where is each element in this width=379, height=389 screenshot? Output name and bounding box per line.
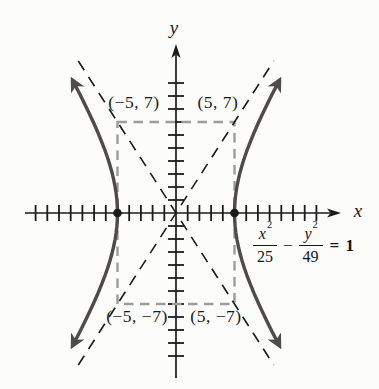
equation-exponent-x: 2 (267, 219, 272, 230)
y-axis-label: y (170, 17, 178, 39)
equation-var-x: x (259, 225, 266, 242)
fraction-y2-over-49: y2 49 (299, 226, 323, 265)
fraction-x2-over-25: x2 25 (253, 226, 277, 265)
equation-denominator-25: 25 (253, 245, 277, 265)
equation-var-y: y (304, 225, 311, 242)
equation-minus-sign: − (283, 236, 293, 256)
label-corner-bottom-left: (−5, −7) (106, 306, 168, 327)
label-corner-top-left: (−5, 7) (108, 92, 159, 113)
hyperbola-plot-canvas (0, 0, 379, 389)
equation-exponent-y: 2 (313, 219, 318, 230)
equation-numerator-y2: y2 (300, 226, 320, 245)
hyperbola-equation: x2 25 − y2 49 = 1 (253, 226, 355, 265)
label-corner-bottom-right: (5, −7) (190, 306, 241, 327)
label-corner-top-right: (5, 7) (198, 92, 239, 113)
equation-denominator-49: 49 (299, 245, 323, 265)
equation-numerator-x2: x2 (255, 226, 275, 245)
hyperbola-figure: (−5, 7) (5, 7) (−5, −7) (5, −7) y x x2 2… (0, 0, 379, 389)
equation-equals-one: = 1 (330, 236, 355, 256)
x-axis-label: x (354, 200, 362, 222)
